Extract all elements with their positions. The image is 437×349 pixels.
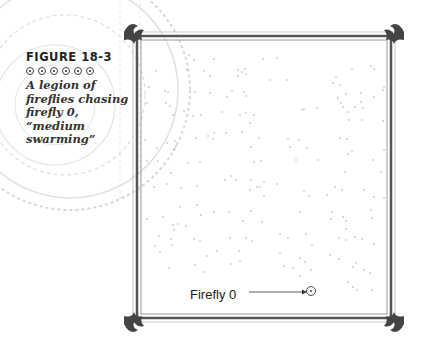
firefly-dot bbox=[228, 211, 229, 212]
firefly-dot bbox=[352, 266, 353, 267]
firefly-dot bbox=[363, 269, 364, 270]
firefly-dot bbox=[363, 189, 364, 190]
firefly-dot bbox=[251, 240, 252, 241]
firefly-dot bbox=[330, 218, 331, 219]
firefly-dot bbox=[383, 149, 384, 150]
firefly-dot bbox=[301, 109, 302, 110]
firefly-dot bbox=[165, 102, 166, 103]
firefly-dot bbox=[164, 90, 165, 91]
firefly-dot bbox=[250, 146, 251, 147]
firefly-dot bbox=[279, 252, 280, 253]
firefly-dot bbox=[286, 79, 287, 80]
firefly-dot bbox=[373, 68, 374, 69]
firefly-dot bbox=[329, 254, 330, 255]
firefly-dot bbox=[292, 267, 293, 268]
firefly-dot bbox=[347, 281, 348, 282]
firefly-dot bbox=[249, 189, 250, 190]
firefly-dot bbox=[256, 186, 257, 187]
firefly-dot bbox=[239, 260, 240, 261]
firefly-dot bbox=[334, 186, 335, 187]
firefly-dot bbox=[239, 114, 240, 115]
firefly-dot bbox=[263, 181, 264, 182]
firefly-dot bbox=[310, 269, 311, 270]
firefly-dot bbox=[199, 161, 200, 162]
firefly-dot bbox=[235, 179, 236, 180]
firefly-dot bbox=[237, 69, 238, 70]
firefly-dot bbox=[175, 145, 176, 146]
firefly-dot bbox=[173, 229, 174, 230]
firefly-dot bbox=[380, 171, 381, 172]
firefly-dot bbox=[195, 137, 196, 138]
firefly-dot bbox=[308, 195, 309, 196]
firefly-dot bbox=[230, 263, 231, 264]
firefly-dot bbox=[186, 69, 187, 70]
firefly-dot bbox=[244, 68, 245, 69]
firefly-dot bbox=[354, 106, 355, 107]
firefly-dot bbox=[263, 195, 264, 196]
firefly-dot bbox=[172, 224, 173, 225]
firefly-dot bbox=[169, 105, 170, 106]
firefly-dot bbox=[342, 216, 343, 217]
firefly-dot bbox=[299, 275, 300, 276]
firefly-dot bbox=[237, 75, 238, 76]
firefly-dot bbox=[262, 58, 263, 59]
firefly-dot bbox=[369, 272, 370, 273]
firefly-dot bbox=[166, 142, 167, 143]
firefly-dot bbox=[249, 122, 250, 123]
firefly-dot bbox=[162, 216, 163, 217]
firefly-dot bbox=[260, 160, 261, 161]
firefly-dot bbox=[352, 286, 353, 287]
firefly-dot bbox=[351, 150, 352, 151]
firefly-dot bbox=[326, 194, 327, 195]
firefly-dot bbox=[157, 160, 158, 161]
firefly-dot bbox=[279, 233, 280, 234]
firefly-dot bbox=[209, 92, 210, 93]
firefly-dot bbox=[373, 96, 374, 97]
firefly-dot bbox=[146, 218, 147, 219]
firefly-dot bbox=[196, 185, 197, 186]
corner-flourish-icon bbox=[124, 312, 144, 332]
firefly-dot bbox=[382, 120, 383, 121]
firefly-dot bbox=[298, 139, 299, 140]
firefly-dot bbox=[168, 267, 169, 268]
firefly-dot bbox=[200, 114, 201, 115]
firefly-dot bbox=[242, 220, 243, 221]
firefly-dot bbox=[174, 140, 175, 141]
firefly-dot bbox=[221, 111, 222, 112]
firefly-dot bbox=[243, 91, 244, 92]
firefly-dot bbox=[238, 250, 239, 251]
firefly-dot bbox=[159, 251, 160, 252]
firefly-dot bbox=[183, 110, 184, 111]
firefly-dot bbox=[185, 225, 186, 226]
firefly-dot bbox=[206, 255, 207, 256]
firefly-dot bbox=[245, 112, 246, 113]
firefly-dot bbox=[196, 204, 197, 205]
firefly-dot bbox=[338, 237, 339, 238]
firefly-dot bbox=[339, 84, 340, 85]
firefly-dot bbox=[199, 240, 200, 241]
firefly-dot bbox=[170, 238, 171, 239]
firefly-dot bbox=[373, 196, 374, 197]
firefly-0-label: Firefly 0 bbox=[190, 287, 236, 302]
firefly-dot bbox=[203, 271, 204, 272]
firefly-dot bbox=[225, 132, 226, 133]
firefly-dot bbox=[295, 159, 296, 160]
firefly-dot bbox=[346, 138, 347, 139]
firefly-dot bbox=[331, 211, 332, 212]
firefly-dot bbox=[299, 257, 300, 258]
firefly-dot bbox=[289, 146, 290, 147]
corner-flourish-icon bbox=[384, 312, 404, 332]
firefly-dot bbox=[209, 75, 210, 76]
firefly-dot bbox=[146, 102, 147, 103]
firefly-dot bbox=[351, 68, 352, 69]
firefly-dot bbox=[345, 220, 346, 221]
firefly-dot bbox=[361, 238, 362, 239]
firefly-dot bbox=[383, 197, 384, 198]
firefly-dot bbox=[269, 79, 270, 80]
firefly-dot bbox=[231, 90, 232, 91]
firefly-dot bbox=[356, 289, 357, 290]
firefly-dot bbox=[360, 101, 361, 102]
firefly-dot bbox=[245, 73, 246, 74]
firefly-dot bbox=[213, 58, 214, 59]
firefly-dot bbox=[258, 137, 259, 138]
